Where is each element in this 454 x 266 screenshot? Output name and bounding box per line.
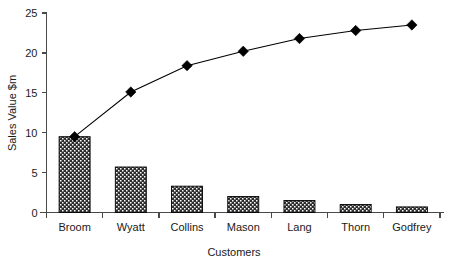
x-category-label: Lang [287,221,311,233]
x-category-label: Collins [171,221,205,233]
bar [396,207,427,213]
bar [340,205,371,213]
y-tick-label: 10 [25,127,37,139]
y-axis-tick-labels: 0510152025 [25,7,37,219]
cumulative-line-series [75,25,412,137]
x-axis-tick-labels: BroomWyattCollinsMasonLangThornGodfrey [58,221,432,233]
bar [59,137,90,213]
y-tick-label: 0 [31,207,37,219]
y-tick-label: 5 [31,167,37,179]
cumulative-marker [182,60,192,70]
x-category-label: Mason [227,221,260,233]
x-axis-title: Customers [207,246,261,258]
cumulative-marker [238,46,248,56]
bar [172,186,203,212]
x-axis: BroomWyattCollinsMasonLangThornGodfrey C… [40,213,444,259]
x-category-label: Wyatt [117,221,145,233]
cumulative-marker [350,25,360,35]
y-axis-title: Sales Value $m [6,75,18,151]
bar [115,167,146,212]
bar [228,197,259,213]
cumulative-marker [294,33,304,43]
y-tick-label: 20 [25,47,37,59]
y-axis: 0510152025 Sales Value $m [6,7,47,219]
chart-canvas: 0510152025 Sales Value $m BroomWyattColl… [0,0,454,266]
cumulative-marker [407,20,417,30]
x-axis-ticks [47,213,441,218]
x-category-label: Thorn [341,221,370,233]
cumulative-line [75,25,412,137]
cumulative-line-markers [69,20,417,142]
bar [284,201,315,213]
y-tick-label: 15 [25,87,37,99]
x-category-label: Broom [58,221,90,233]
bar-series [59,137,427,213]
cumulative-marker [126,87,136,97]
y-tick-label: 25 [25,7,37,19]
y-axis-ticks [42,13,47,213]
pareto-chart: 0510152025 Sales Value $m BroomWyattColl… [0,0,454,266]
x-category-label: Godfrey [392,221,432,233]
